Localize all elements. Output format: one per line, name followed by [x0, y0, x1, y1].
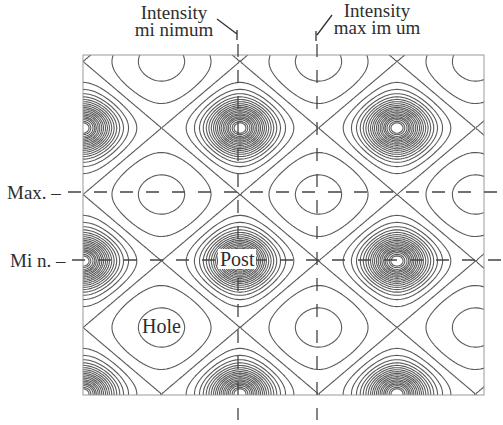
plot-frame	[83, 55, 484, 395]
intensity-minimum-line2: mi nimum	[126, 21, 222, 38]
annotation-arrows	[217, 15, 332, 41]
min-row-label: Mi n. –	[10, 251, 65, 270]
contour-path	[79, 51, 489, 399]
post-label: Post	[218, 249, 256, 269]
intensity-maximum-label: Intensity max im um	[329, 2, 425, 36]
max-row-label: Max. –	[7, 183, 61, 202]
contour-lines	[79, 51, 489, 399]
intensity-minimum-label: Intensity mi nimum	[126, 4, 222, 38]
contour-figure	[0, 0, 503, 425]
intensity-maximum-line2: max im um	[329, 19, 425, 36]
hole-label: Hole	[142, 316, 181, 336]
